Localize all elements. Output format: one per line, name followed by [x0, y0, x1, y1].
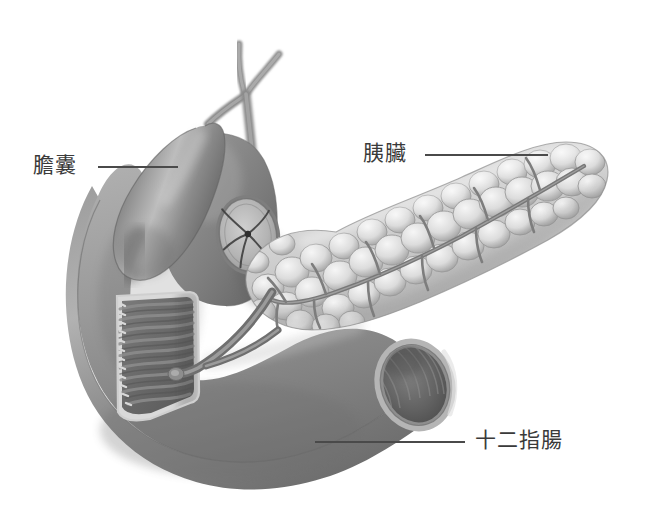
anatomy-figure: 膽囊 胰臟 十二指腸: [0, 0, 656, 523]
label-pancreas: 胰臟: [363, 143, 407, 164]
hepatic-ducts: [239, 44, 279, 92]
label-gallbladder: 膽囊: [33, 155, 77, 176]
label-duodenum: 十二指腸: [475, 430, 563, 451]
duodenum-window: [117, 292, 200, 422]
pancreas-body: [243, 142, 608, 338]
cystic-duct: [208, 96, 244, 124]
